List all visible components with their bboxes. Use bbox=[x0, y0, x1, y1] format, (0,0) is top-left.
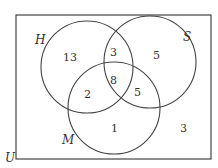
region-h-s-only: 3 bbox=[110, 46, 117, 59]
set-m-label: M bbox=[61, 133, 75, 147]
region-h-m-only: 2 bbox=[84, 88, 91, 101]
universe-label: U bbox=[5, 151, 16, 165]
set-s-label: S bbox=[183, 30, 191, 44]
region-s-m-only: 5 bbox=[134, 86, 141, 99]
region-h-only: 13 bbox=[63, 51, 77, 64]
region-h-s-m: 8 bbox=[110, 74, 117, 87]
venn-diagram: H S M U 13 3 5 8 2 5 1 3 bbox=[0, 0, 218, 168]
region-outside: 3 bbox=[180, 122, 187, 135]
region-m-only: 1 bbox=[111, 122, 118, 135]
set-h-label: H bbox=[34, 33, 46, 47]
region-s-only: 5 bbox=[153, 49, 160, 62]
